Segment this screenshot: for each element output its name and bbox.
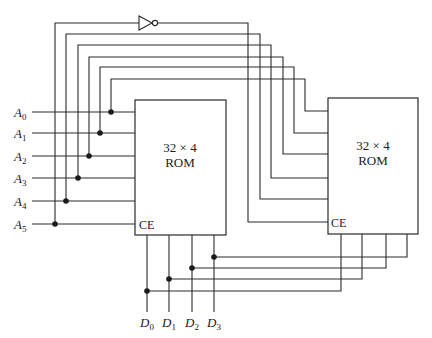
- label-a1: A1: [13, 126, 26, 143]
- data-bus: [144, 234, 407, 312]
- rom-1: 32 × 4 ROM CE: [135, 100, 226, 235]
- inverter-gate: [139, 16, 158, 30]
- svg-text:CE: CE: [331, 216, 346, 230]
- rom-2: 32 × 4 ROM CE: [328, 98, 418, 234]
- svg-text:ROM: ROM: [358, 153, 388, 168]
- label-d3: D3: [206, 315, 221, 332]
- data-labels: D0 D1 D2 D3: [139, 315, 221, 332]
- label-d2: D2: [184, 315, 199, 332]
- label-d1: D1: [161, 315, 176, 332]
- label-a2: A2: [13, 149, 26, 166]
- label-d0: D0: [139, 315, 154, 332]
- svg-text:ROM: ROM: [165, 155, 195, 170]
- rom-expansion-diagram: A0 A1 A2 A3 A4 A5 32 × 4 ROM CE 32 × 4 R…: [0, 0, 432, 338]
- svg-text:CE: CE: [139, 218, 154, 232]
- input-junctions: [52, 109, 114, 227]
- label-a4: A4: [13, 194, 27, 211]
- address-labels: A0 A1 A2 A3 A4 A5: [13, 105, 27, 234]
- address-inputs-rom1: [32, 112, 135, 224]
- svg-text:32 × 4: 32 × 4: [163, 140, 197, 155]
- label-a5: A5: [13, 217, 27, 234]
- label-a0: A0: [13, 105, 27, 122]
- label-a3: A3: [13, 171, 27, 188]
- svg-text:32 × 4: 32 × 4: [356, 138, 390, 153]
